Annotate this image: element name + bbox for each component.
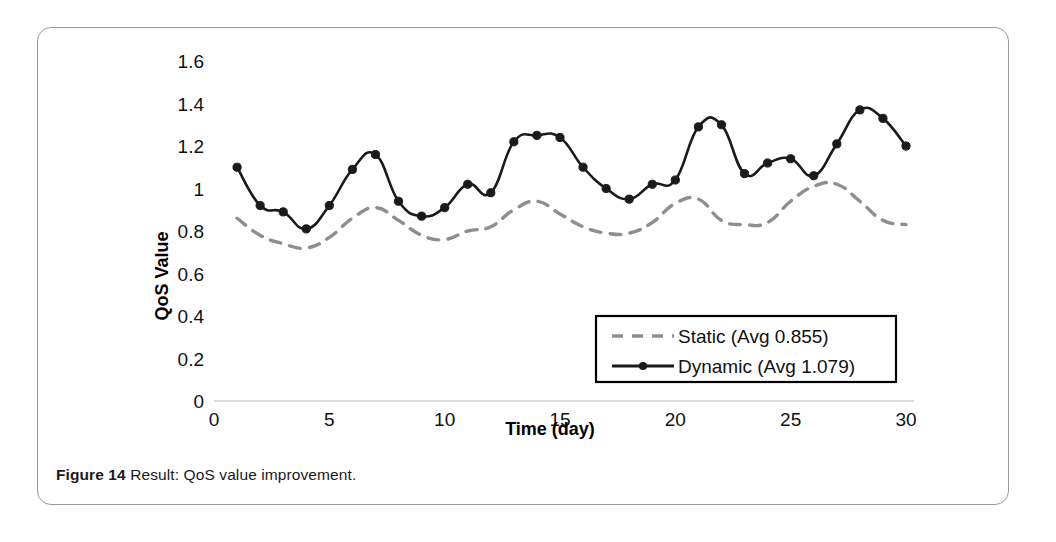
data-point-marker [902,142,910,150]
data-point-marker [579,163,587,171]
data-point-marker [487,189,495,197]
data-point-marker [371,150,379,158]
y-tick-label: 1.6 [178,51,204,72]
series-lines [237,108,906,249]
data-point-marker [325,201,333,209]
y-tick-label: 1.4 [178,94,205,115]
data-point-marker [764,159,772,167]
data-point-marker [233,163,241,171]
chart-plot-area: 00.20.40.60.811.21.41.6 051015202530 QoS… [38,28,1010,506]
y-tick-label: 0.8 [178,221,204,242]
data-point-marker [625,195,633,203]
chart-legend[interactable]: Static (Avg 0.855)Dynamic (Avg 1.079) [596,316,896,382]
data-point-marker [717,121,725,129]
x-tick-label: 30 [895,409,916,430]
figure-caption-label: Figure 14 [56,466,126,483]
legend-label-dynamic[interactable]: Dynamic (Avg 1.079) [678,356,855,377]
data-point-marker [279,208,287,216]
data-point-marker [256,201,264,209]
y-axis-tick-labels: 00.20.40.60.811.21.41.6 [178,51,205,412]
series-line-dynamic [237,108,906,229]
x-tick-label: 0 [209,409,220,430]
data-point-marker [602,184,610,192]
qos-line-chart: 00.20.40.60.811.21.41.6 051015202530 QoS… [38,28,1010,506]
legend-label-static[interactable]: Static (Avg 0.855) [678,326,829,347]
data-point-marker [740,170,748,178]
y-tick-label: 0 [193,391,204,412]
figure-caption-text: Result: QoS value improvement. [130,466,356,483]
x-tick-label: 10 [434,409,455,430]
y-tick-label: 0.4 [178,306,205,327]
data-point-marker [810,172,818,180]
data-point-marker [510,138,518,146]
y-tick-label: 1.2 [178,136,204,157]
x-tick-label: 25 [780,409,801,430]
legend-marker-sample [639,362,647,370]
data-point-marker [648,180,656,188]
y-tick-label: 0.2 [178,349,204,370]
series-markers [233,106,910,233]
x-tick-label: 20 [665,409,686,430]
data-point-marker [418,212,426,220]
x-tick-label: 5 [324,409,335,430]
figure-caption: Figure 14 Result: QoS value improvement. [56,466,986,484]
data-point-marker [856,106,864,114]
data-point-marker [556,133,564,141]
data-point-marker [694,123,702,131]
data-point-marker [833,140,841,148]
data-point-marker [348,165,356,173]
y-tick-label: 0.6 [178,264,204,285]
data-point-marker [671,176,679,184]
figure-container: 00.20.40.60.811.21.41.6 051015202530 QoS… [37,27,1009,505]
data-point-marker [302,225,310,233]
y-tick-label: 1 [193,179,204,200]
data-point-marker [533,131,541,139]
data-point-marker [441,204,449,212]
data-point-marker [879,114,887,122]
data-point-marker [464,180,472,188]
data-point-marker [787,155,795,163]
x-axis-title: Time (day) [505,419,595,439]
data-point-marker [394,197,402,205]
y-axis-title: QoS Value [152,231,172,320]
